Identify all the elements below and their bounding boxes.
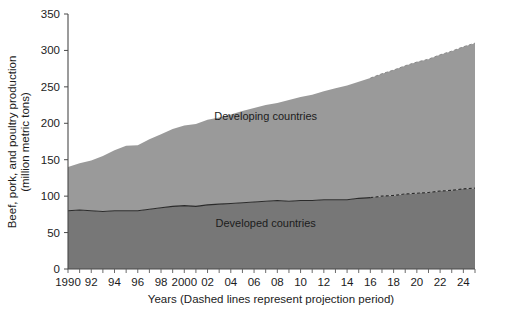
y-tick-label: 250: [41, 81, 60, 93]
y-tick-label: 0: [54, 263, 60, 275]
y-axis-title-line2: (million metric tons): [19, 92, 31, 192]
series-label-developing-countries: Developing countries: [214, 110, 317, 122]
chart-figure: Beef, pork, and poultry production (mill…: [0, 0, 510, 310]
x-tick-label: 10: [294, 276, 307, 288]
x-tick-label: 94: [108, 276, 121, 288]
x-tick-label: 92: [85, 276, 98, 288]
x-tick-label: 12: [317, 276, 330, 288]
y-tick-label: 200: [41, 117, 60, 129]
x-tick-label: 02: [201, 276, 214, 288]
x-tick-label: 16: [364, 276, 377, 288]
y-tick-label: 150: [41, 154, 60, 166]
x-tick-label: 98: [155, 276, 168, 288]
y-tick-label: 50: [47, 227, 60, 239]
x-tick-label: 96: [131, 276, 144, 288]
x-tick-label: 18: [387, 276, 400, 288]
plot-area: 0501001502002503003501990929496982000020…: [41, 8, 475, 288]
y-tick-label: 100: [41, 190, 60, 202]
x-tick-label: 20: [410, 276, 423, 288]
x-tick-label: 24: [457, 276, 470, 288]
area-chart-svg: Beef, pork, and poultry production (mill…: [0, 0, 510, 310]
x-tick-label: 14: [341, 276, 354, 288]
x-tick-label: 22: [434, 276, 447, 288]
area-developing-countries: [68, 43, 475, 211]
y-axis-title: Beef, pork, and poultry production (mill…: [6, 56, 31, 229]
x-tick-label: 08: [271, 276, 284, 288]
x-tick-label: 1990: [55, 276, 81, 288]
x-tick-label: 04: [224, 276, 237, 288]
x-tick-label: 2000: [171, 276, 197, 288]
y-axis-title-line1: Beef, pork, and poultry production: [6, 56, 18, 229]
series-label-developed-countries: Developed countries: [216, 217, 317, 229]
x-tick-label: 06: [248, 276, 261, 288]
y-tick-label: 350: [41, 8, 60, 20]
y-tick-label: 300: [41, 44, 60, 56]
x-axis-title: Years (Dashed lines represent projection…: [148, 293, 394, 305]
